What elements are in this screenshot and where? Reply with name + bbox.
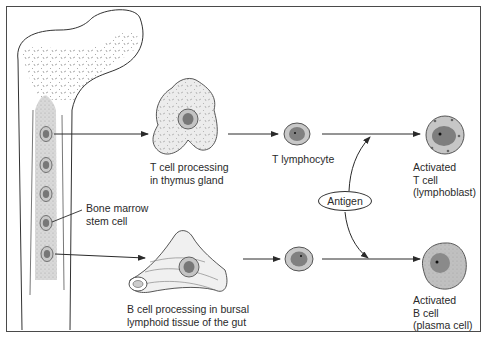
b-lymphocyte-cell [285, 247, 313, 271]
t-lymphocyte-cell [284, 123, 310, 145]
stem-cell [40, 187, 52, 202]
label-t-cell-processing: T cell processing in thymus gland [150, 161, 229, 186]
stem-cell [41, 247, 53, 262]
label-b-cell-processing: B cell processing in bursal lymphoid tis… [127, 303, 249, 328]
label-activated-t-cell: Activated T cell (lymphoblast) [413, 161, 476, 199]
activated-t-cell [426, 116, 464, 154]
thymus-gland-illustration [153, 78, 217, 154]
arrow-antigen-to-t [349, 137, 370, 191]
stem-cell [40, 158, 52, 173]
femur-bone-illustration [18, 10, 143, 330]
label-t-lymphocyte: T lymphocyte [272, 153, 334, 166]
stem-cell [40, 127, 52, 142]
label-activated-b-cell: Activated B cell (plasma cell) [413, 294, 473, 332]
antigen-node: Antigen [318, 191, 372, 211]
activated-b-cell [422, 243, 466, 289]
label-bone-marrow-stem-cell: Bone marrow stem cell [86, 202, 148, 227]
arrow-antigen-to-b [345, 212, 368, 258]
stem-cell [40, 216, 52, 231]
bursal-tissue-illustration [129, 231, 227, 293]
antigen-label: Antigen [327, 195, 363, 207]
